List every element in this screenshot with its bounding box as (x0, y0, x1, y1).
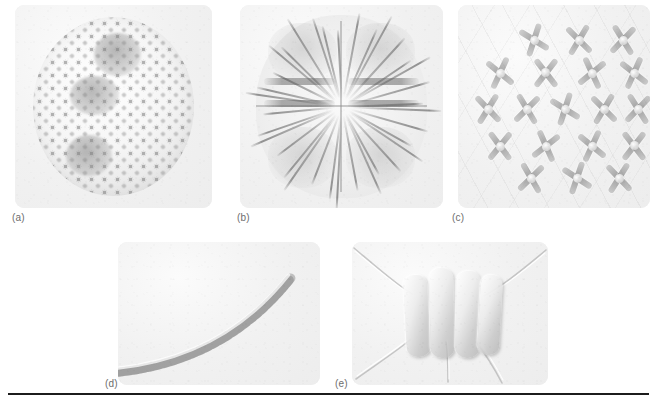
panel-e-grain (352, 242, 548, 385)
caption-c: (c) (452, 213, 464, 223)
micrograph-panel-e (352, 242, 548, 385)
micrograph-panel-b (240, 5, 443, 208)
caption-a: (a) (12, 213, 25, 223)
panel-a-grain (15, 5, 212, 208)
panel-c-grain (458, 5, 650, 208)
footer-rule (8, 393, 649, 395)
caption-d: (d) (105, 379, 118, 389)
micrograph-panel-c (458, 5, 650, 208)
caption-e: (e) (335, 379, 348, 389)
micrograph-panel-d (118, 242, 320, 385)
panel-d-grain (118, 242, 320, 385)
caption-b: (b) (237, 213, 250, 223)
panel-b-grain (240, 5, 443, 208)
figure-plate: (a) (b) (c) ( (0, 0, 657, 406)
micrograph-panel-a (15, 5, 212, 208)
